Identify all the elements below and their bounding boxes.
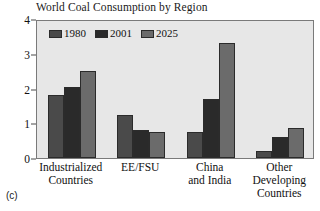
y-tick-label: 3 <box>24 49 30 61</box>
bar <box>203 99 219 158</box>
x-axis-label-line: China <box>175 161 245 174</box>
x-axis-label-line: Developing <box>245 174 315 187</box>
x-axis-label-line: Countries <box>36 174 106 187</box>
bar-group <box>107 21 177 158</box>
x-axis-label-line: EE/FSU <box>106 161 176 174</box>
bar-group <box>176 21 246 158</box>
x-axis-label: EE/FSU <box>106 161 176 174</box>
y-tick-label: 4 <box>24 14 30 26</box>
bar <box>288 128 304 158</box>
bar <box>80 71 96 158</box>
x-axis-label-line: Other <box>245 161 315 174</box>
x-axis-label-line: and India <box>175 174 245 187</box>
bar <box>133 130 149 158</box>
x-axis-label: OtherDevelopingCountries <box>245 161 315 200</box>
y-tick-label: 1 <box>24 118 30 130</box>
x-axis-label: IndustrializedCountries <box>36 161 106 187</box>
bar <box>64 87 80 158</box>
bar <box>256 151 272 158</box>
chart-title: World Coal Consumption by Region <box>36 1 208 13</box>
bar <box>272 137 288 158</box>
panel-tag: (c) <box>6 190 18 201</box>
y-axis: 01234 <box>0 20 36 159</box>
bar <box>117 115 133 158</box>
x-axis-label: Chinaand India <box>175 161 245 187</box>
bar <box>48 95 64 158</box>
bar-group <box>246 21 316 158</box>
y-tick-label: 2 <box>24 84 30 96</box>
plot-area: 198020012025 <box>36 20 314 159</box>
x-axis-label-line: Countries <box>245 187 315 200</box>
x-axis-label-line: Industrialized <box>36 161 106 174</box>
x-axis: IndustrializedCountriesEE/FSUChinaand In… <box>36 161 314 211</box>
y-tick-label: 0 <box>24 153 30 165</box>
bar <box>149 132 165 158</box>
bar <box>219 43 235 158</box>
bar <box>187 132 203 158</box>
figure-panel: World Coal Consumption by Region 01234 1… <box>0 0 320 211</box>
bar-group <box>37 21 107 158</box>
